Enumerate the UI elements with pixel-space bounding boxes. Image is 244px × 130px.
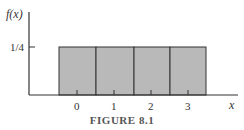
x-tick-label-3: 3 bbox=[185, 100, 191, 112]
x-tick-label-0: 0 bbox=[74, 100, 80, 112]
bar-2 bbox=[134, 47, 170, 95]
probability-histogram: f(x) 1/4 0 1 2 3 x bbox=[0, 0, 244, 130]
bar-0 bbox=[59, 47, 96, 95]
y-axis-label: f(x) bbox=[6, 7, 23, 21]
x-axis-label: x bbox=[228, 98, 235, 112]
x-tick-label-1: 1 bbox=[111, 100, 117, 112]
y-tick-label: 1/4 bbox=[10, 41, 25, 53]
bars bbox=[59, 47, 206, 95]
bar-1 bbox=[96, 47, 134, 95]
figure-caption: FIGURE 8.1 bbox=[0, 114, 244, 126]
x-tick-label-2: 2 bbox=[148, 100, 154, 112]
bar-3 bbox=[170, 47, 206, 95]
